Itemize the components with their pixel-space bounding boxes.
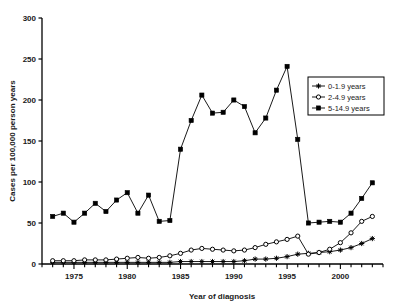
marker-filled-square <box>285 64 289 68</box>
x-tick-labels: 197519801985199019952000 <box>65 272 350 281</box>
marker-filled-square <box>306 221 310 225</box>
series-line <box>53 216 373 260</box>
marker-filled-square <box>146 193 150 197</box>
marker-filled-square <box>264 116 268 120</box>
marker-filled-square <box>349 211 353 215</box>
marker-open-circle <box>51 259 55 263</box>
marker-open-circle <box>189 248 193 252</box>
marker-open-circle <box>242 248 246 252</box>
marker-filled-square <box>296 137 300 141</box>
marker-open-circle <box>125 256 129 260</box>
marker-filled-square <box>221 110 225 114</box>
marker-filled-square <box>200 93 204 97</box>
marker-star <box>221 259 226 264</box>
marker-open-circle <box>253 246 257 250</box>
marker-filled-square <box>93 201 97 205</box>
marker-star <box>157 260 162 265</box>
marker-open-circle <box>200 246 204 250</box>
marker-open-circle <box>317 250 321 254</box>
marker-filled-square <box>360 196 364 200</box>
x-tick-label: 1985 <box>172 272 190 281</box>
marker-filled-square <box>136 211 140 215</box>
marker-filled-square <box>317 220 321 224</box>
y-tick-label: 0 <box>32 260 37 269</box>
marker-star <box>189 259 194 264</box>
marker-star <box>359 241 364 246</box>
marker-filled-square <box>274 88 278 92</box>
marker-open-circle <box>146 256 150 260</box>
marker-star <box>274 256 279 261</box>
line-chart-plot: 050100150200250300 197519801985199019952… <box>0 0 393 306</box>
marker-open-circle <box>136 255 140 259</box>
marker-star <box>338 247 343 252</box>
marker-open-circle <box>232 249 236 253</box>
marker-open-circle <box>61 259 65 263</box>
marker-star <box>348 245 353 250</box>
marker-filled-square <box>189 118 193 122</box>
marker-filled-square <box>178 147 182 151</box>
marker-star <box>210 259 215 264</box>
marker-open-circle <box>168 254 172 258</box>
axes <box>39 18 384 269</box>
marker-filled-square <box>338 220 342 224</box>
x-tick-label: 2000 <box>331 272 349 281</box>
y-axis-title: Cases per 100,000 person years <box>8 80 17 202</box>
marker-open-circle <box>83 258 87 262</box>
marker-star <box>370 236 375 241</box>
chart-container: 050100150200250300 197519801985199019952… <box>0 0 393 306</box>
marker-open-circle <box>210 247 214 251</box>
marker-star <box>135 260 140 265</box>
marker-star <box>167 260 172 265</box>
marker-open-circle <box>296 234 300 238</box>
legend: 0-1.9 years2-4.9 years5-14.9 years <box>308 77 384 115</box>
marker-filled-square <box>157 219 161 223</box>
marker-open-circle <box>178 251 182 255</box>
marker-filled-square <box>104 209 108 213</box>
marker-filled-square <box>316 106 320 110</box>
marker-filled-square <box>114 198 118 202</box>
marker-open-circle <box>285 237 289 241</box>
marker-filled-square <box>168 218 172 222</box>
marker-filled-square <box>370 181 374 185</box>
legend-label-1: 2-4.9 years <box>328 93 366 102</box>
marker-open-circle <box>360 219 364 223</box>
marker-filled-square <box>51 214 55 218</box>
y-tick-label: 300 <box>23 14 37 23</box>
marker-open-circle <box>72 259 76 263</box>
marker-star <box>253 256 258 261</box>
marker-filled-square <box>253 131 257 135</box>
marker-star <box>284 254 289 259</box>
x-axis-title: Year of diagnosis <box>189 292 256 301</box>
marker-open-circle <box>274 240 278 244</box>
marker-open-circle <box>264 242 268 246</box>
marker-filled-square <box>232 98 236 102</box>
x-tick-label: 1990 <box>225 272 243 281</box>
marker-open-circle <box>114 257 118 261</box>
y-tick-labels: 050100150200250300 <box>23 14 37 269</box>
legend-label-0: 0-1.9 years <box>328 82 366 91</box>
legend-label-2: 5-14.9 years <box>328 104 370 113</box>
x-tick-label: 1975 <box>65 272 83 281</box>
y-tick-label: 200 <box>23 96 37 105</box>
marker-star <box>199 259 204 264</box>
marker-filled-square <box>125 191 129 195</box>
y-tick-label: 50 <box>27 219 36 228</box>
marker-star <box>263 256 268 261</box>
y-tick-label: 250 <box>23 55 37 64</box>
marker-filled-square <box>328 219 332 223</box>
marker-star <box>316 83 321 88</box>
marker-open-circle <box>370 214 374 218</box>
marker-filled-square <box>242 104 246 108</box>
marker-open-circle <box>349 231 353 235</box>
marker-filled-square <box>83 211 87 215</box>
marker-star <box>295 252 300 257</box>
marker-open-circle <box>157 255 161 259</box>
y-tick-label: 150 <box>23 137 37 146</box>
marker-filled-square <box>210 111 214 115</box>
marker-filled-square <box>72 220 76 224</box>
marker-open-circle <box>328 247 332 251</box>
marker-open-circle <box>338 241 342 245</box>
marker-open-circle <box>306 252 310 256</box>
y-tick-label: 100 <box>23 178 37 187</box>
marker-filled-square <box>61 211 65 215</box>
